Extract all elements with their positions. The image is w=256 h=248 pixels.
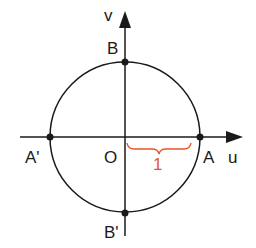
point-b-prime-label: B' xyxy=(104,223,119,242)
origin-label: O xyxy=(104,148,117,167)
radius-label: 1 xyxy=(153,155,162,174)
u-axis-label: u xyxy=(228,148,237,167)
v-axis-label: v xyxy=(104,6,113,25)
point-b xyxy=(122,59,129,66)
u-axis-arrow-icon xyxy=(226,131,243,143)
point-a-prime xyxy=(47,134,54,141)
point-a xyxy=(197,134,204,141)
point-b-label: B xyxy=(107,39,118,58)
unit-circle-diagram: v B A' O A u B' 1 xyxy=(0,0,256,248)
radius-brace xyxy=(127,143,191,154)
point-a-prime-label: A' xyxy=(25,148,40,167)
v-axis-arrow-icon xyxy=(119,11,131,28)
point-a-label: A xyxy=(203,148,215,167)
point-b-prime xyxy=(122,210,129,217)
